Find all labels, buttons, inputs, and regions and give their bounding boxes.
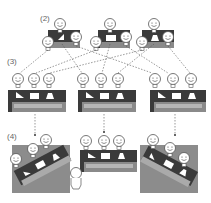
diagram-canvas — [0, 0, 211, 203]
smiley-face-icon — [186, 74, 197, 88]
presentation-group-1 — [11, 135, 72, 194]
smiley-face-icon — [113, 74, 124, 88]
smiley-face-icon — [81, 136, 92, 150]
mixed-group-1 — [8, 74, 66, 113]
smiley-face-icon — [99, 136, 110, 150]
smiley-face-icon — [150, 74, 161, 88]
mixed-group-2 — [78, 74, 137, 113]
presentation-group-3 — [140, 135, 198, 194]
rectangle-icon — [106, 35, 116, 41]
presentation-group-2 — [80, 136, 137, 173]
expert-group-1 — [43, 19, 82, 51]
smiley-face-icon — [137, 37, 148, 51]
mixed-group-3 — [150, 74, 207, 113]
smiley-face-icon — [44, 74, 55, 88]
smiley-face-icon — [91, 37, 102, 51]
expert-group-3 — [137, 19, 175, 51]
smiley-face-icon — [114, 136, 125, 150]
smiley-face-icon — [168, 74, 179, 88]
facilitator — [71, 168, 82, 190]
redistribution-lines — [20, 44, 190, 73]
expert-group-2 — [91, 19, 132, 51]
smiley-face-icon — [78, 74, 89, 88]
transition-arrows — [35, 114, 175, 134]
smiley-face-icon — [13, 74, 24, 88]
smiley-face-icon — [29, 74, 40, 88]
smiley-face-icon — [43, 37, 54, 51]
smiley-face-icon — [96, 74, 107, 88]
